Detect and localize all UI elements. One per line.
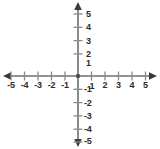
x-axis-right-arrow-icon [149, 72, 157, 80]
x-axis-label--4: -4 [21, 81, 29, 90]
coordinate-plane: -5 -4 -3 -2 -1 1 2 3 4 5 5 4 3 2 1 -1 -2… [0, 0, 160, 149]
y-axis-label-3: 3 [86, 36, 91, 45]
x-axis-label-2: 2 [103, 81, 108, 90]
y-axis-up-arrow-icon [74, 2, 82, 10]
origin-dot-icon [76, 74, 80, 78]
x-axis-label-4: 4 [130, 81, 135, 90]
y-axis-label--3: -3 [84, 111, 92, 120]
y-axis-down-arrow-icon [74, 139, 82, 147]
x-axis-left-arrow-icon [3, 72, 11, 80]
x-axis-label-3: 3 [116, 81, 121, 90]
x-axis-label--3: -3 [34, 81, 42, 90]
axes-graphic [0, 0, 160, 149]
y-axis-label--2: -2 [84, 98, 92, 107]
y-axis-label-5: 5 [86, 10, 91, 19]
y-axis-label--4: -4 [84, 125, 92, 134]
y-axis-label-4: 4 [86, 23, 91, 32]
x-axis-label--5: -5 [7, 81, 15, 90]
x-axis-label--2: -2 [48, 81, 56, 90]
x-axis-label--1: -1 [61, 81, 69, 90]
y-axis-label--5: -5 [84, 137, 92, 146]
x-axis-label-5: 5 [143, 81, 148, 90]
y-axis-label-1: 1 [86, 59, 91, 68]
y-axis-label--1: -1 [84, 85, 92, 94]
